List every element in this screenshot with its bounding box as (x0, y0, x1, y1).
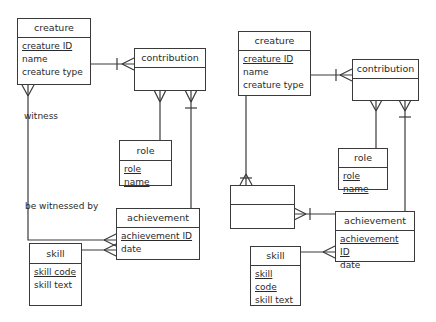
entity-creature-right: creature creature ID name creature type (238, 31, 311, 96)
relationship-label-witness: witness (24, 111, 58, 121)
attribute: date (340, 259, 410, 272)
primary-key: achievement ID (121, 230, 195, 243)
entity-achievement-left: achievement achievement ID date (116, 208, 200, 260)
primary-key: achievement ID (340, 233, 410, 259)
entity-title: achievement (117, 209, 199, 228)
entity-achievement-right: achievement achievement ID date (335, 211, 415, 262)
attribute: date (121, 243, 195, 256)
entity-title (231, 186, 294, 205)
primary-key: role name (343, 170, 383, 196)
primary-key: creature ID (22, 40, 86, 53)
attribute: name (22, 53, 86, 66)
entity-contribution-right: contribution (352, 59, 419, 101)
entity-title: contribution (135, 49, 205, 68)
entity-unnamed-right (230, 185, 295, 229)
attribute: skill text (34, 279, 77, 292)
primary-key: creature ID (243, 53, 306, 66)
entity-title: creature (18, 19, 90, 38)
entity-skill-left: skill skill code skill text (29, 243, 82, 306)
entity-title: creature (239, 32, 310, 51)
entity-contribution-left: contribution (134, 48, 206, 91)
entity-role-left: role role name (119, 140, 172, 186)
entity-title: role (339, 149, 387, 168)
entity-title: achievement (336, 212, 414, 231)
primary-key: skill code (34, 266, 77, 279)
entity-title: contribution (353, 60, 418, 79)
attribute: creature type (243, 79, 306, 92)
entity-creature-left: creature creature ID name creature type (17, 18, 91, 85)
attribute: name (243, 66, 306, 79)
entity-title: role (120, 141, 171, 161)
entity-role-right: role role name (338, 148, 388, 190)
attribute: skill text (255, 294, 296, 307)
relationship-label-be-witnessed-by: be witnessed by (25, 201, 98, 211)
primary-key: skill code (255, 268, 296, 294)
primary-key: role name (124, 163, 167, 189)
entity-title: skill (30, 244, 81, 264)
entity-title: skill (251, 247, 300, 266)
attribute: creature type (22, 66, 86, 79)
entity-skill-right: skill skill code skill text (250, 246, 301, 306)
